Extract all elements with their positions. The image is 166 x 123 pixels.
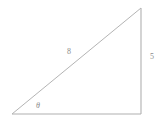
hypotenuse-label: 8 [67, 48, 71, 56]
triangle-figure [0, 0, 166, 123]
opposite-side-label: 5 [150, 53, 154, 61]
triangle-hypotenuse-line [12, 8, 141, 114]
angle-theta-label: θ [36, 102, 40, 110]
triangle-diagram: 8 5 θ [0, 0, 166, 123]
